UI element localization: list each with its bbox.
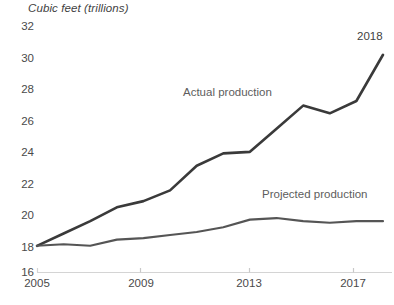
projected-production-label: Projected production	[262, 188, 367, 200]
x-tick-2005: 2005	[24, 277, 50, 289]
x-tick-2009: 2009	[128, 277, 154, 289]
gas-production-line-chart: Cubic feet (trillions) 32 30 28 26 24 22…	[0, 0, 394, 305]
actual-production-label: Actual production	[183, 86, 272, 98]
plot-area	[0, 0, 394, 305]
end-point-year-annotation: 2018	[357, 30, 383, 42]
actual-production-line	[37, 55, 383, 246]
x-tick-2017: 2017	[340, 277, 366, 289]
x-tick-2013: 2013	[236, 277, 262, 289]
